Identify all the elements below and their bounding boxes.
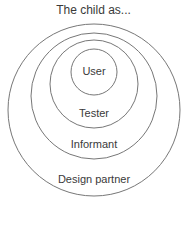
label-tester: Tester (34, 107, 154, 119)
label-user: User (34, 65, 154, 77)
label-informant: Informant (34, 138, 154, 150)
label-design-partner: Design partner (34, 173, 154, 185)
